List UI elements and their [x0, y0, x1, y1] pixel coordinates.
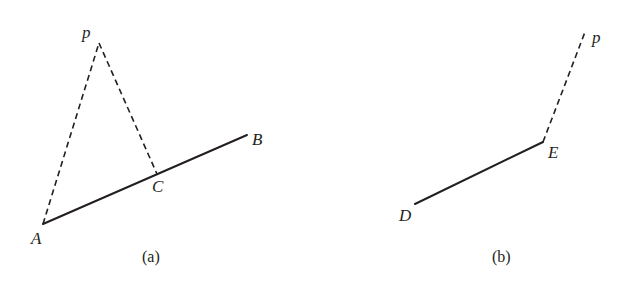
segment-DE — [415, 142, 543, 204]
geometry-canvas — [0, 0, 634, 290]
point-label-p-b: p — [592, 29, 601, 46]
panel-caption-b: (b) — [492, 249, 511, 265]
panel-caption-a: (a) — [142, 249, 160, 265]
segment-AP — [43, 43, 99, 224]
point-label-p-a: p — [82, 24, 91, 41]
figure-root: p B C A p E D (a) (b) — [0, 0, 634, 290]
point-label-c: C — [152, 178, 163, 195]
point-label-b: B — [252, 131, 262, 148]
segment-PC — [99, 43, 157, 174]
point-label-a: A — [31, 230, 41, 247]
point-label-e: E — [548, 144, 558, 161]
segment-EP — [543, 32, 585, 142]
point-label-d: D — [399, 207, 411, 224]
